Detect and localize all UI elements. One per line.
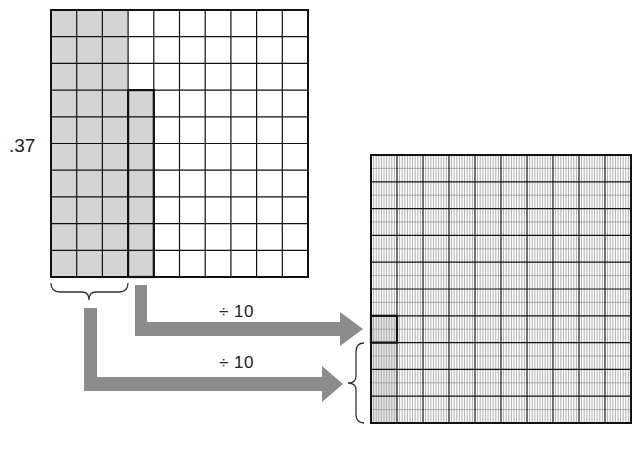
brace-right-grid-icon [348, 343, 364, 423]
decimal-division-diagram: .37 ÷ 10 ÷ 10 [0, 0, 633, 455]
divide-by-ten-label-lower: ÷ 10 [219, 353, 254, 373]
brace-under-tenths-icon [51, 283, 128, 300]
diagram-graphics [0, 0, 633, 455]
decimal-label: .37 [9, 135, 35, 157]
divide-by-ten-label-upper: ÷ 10 [219, 302, 254, 322]
right-thousandths-grid [371, 155, 631, 423]
left-hundredths-grid [51, 10, 308, 277]
